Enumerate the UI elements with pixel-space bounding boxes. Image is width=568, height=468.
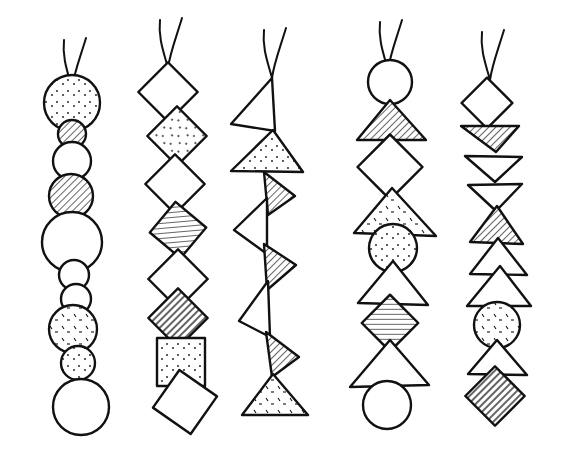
bead-tri-hatch: [357, 100, 426, 140]
bead-tri-plain: [465, 156, 522, 182]
bead-tri-plain: [231, 78, 275, 131]
string-loop: [160, 18, 182, 68]
bead-circle-plain: [368, 60, 412, 104]
bead-tri-hatch: [264, 172, 295, 215]
illustration-canvas: Five hand-drawn bead strands: [0, 0, 568, 468]
bead-tri-speckle: [231, 130, 303, 172]
strand-3: [231, 28, 308, 415]
bead-circle-speckle: [61, 346, 95, 380]
bead-tri-plain: [239, 281, 270, 337]
strand-2: [138, 18, 217, 434]
strand-4: [350, 20, 436, 429]
bead-tri-plain: [234, 198, 267, 254]
bead-circle-plain: [363, 381, 411, 429]
string-loop: [482, 30, 504, 80]
bead-tri-hatch: [461, 126, 519, 152]
bead-strands-drawing: [0, 0, 568, 468]
bead-diamond-plain: [138, 62, 197, 121]
strand-5: [461, 30, 531, 426]
bead-diamond-plain: [462, 78, 513, 129]
bead-tri-hatch: [266, 332, 299, 377]
bead-circle-plain: [53, 379, 109, 435]
bead-tri-dash: [242, 374, 308, 415]
strand-1: [42, 38, 109, 435]
string-loop: [264, 28, 286, 78]
